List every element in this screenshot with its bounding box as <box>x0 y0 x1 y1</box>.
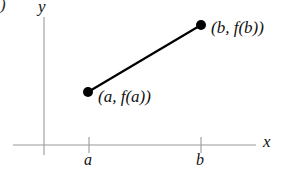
point-b-annotation: (b, f(b)) <box>211 19 264 36</box>
y-axis-label: y <box>38 0 46 15</box>
x-tick-label-a: a <box>84 152 92 168</box>
secant-line-segment <box>88 25 201 92</box>
secant-line-figure: ) y x a b (a, f(a)) (b, f(b)) <box>0 0 294 181</box>
point-a-annotation: (a, f(a)) <box>98 88 151 105</box>
x-tick-label-b: b <box>196 152 204 168</box>
data-point-a-marker <box>83 87 93 97</box>
x-axis-label: x <box>263 133 271 150</box>
data-point-b-marker <box>196 20 206 30</box>
